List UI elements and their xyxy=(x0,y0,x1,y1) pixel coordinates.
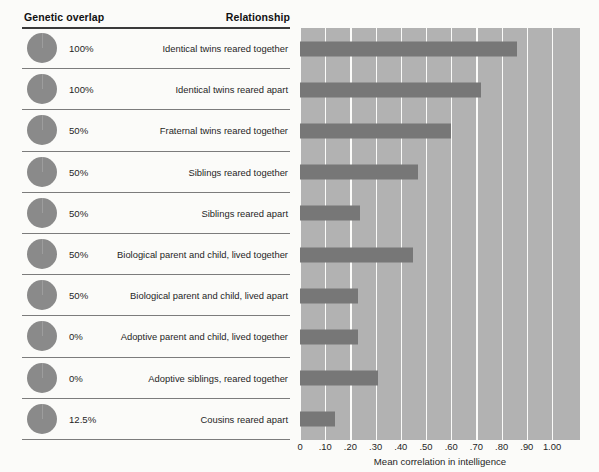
x-tick-label: .90 xyxy=(520,441,533,452)
x-tick-label: .40 xyxy=(394,441,407,452)
genetic-overlap-pie-icon xyxy=(27,363,57,393)
x-axis-title: Mean correlation in intelligence xyxy=(300,456,580,467)
bar-row xyxy=(300,234,580,275)
relationship-label: Adoptive parent and child, lived togethe… xyxy=(121,331,288,342)
pie-slice-divider xyxy=(42,198,43,213)
pie-slice-divider xyxy=(42,404,43,419)
genetic-overlap-pie-icon xyxy=(27,74,57,104)
genetic-overlap-correlation-figure: Genetic overlap Relationship 100%Identic… xyxy=(0,0,599,472)
relationship-label: Identical twins reared apart xyxy=(175,84,288,95)
bar-row xyxy=(300,28,580,69)
table-row: 100%Identical twins reared apart xyxy=(22,69,290,110)
header-genetic-overlap: Genetic overlap xyxy=(24,11,104,23)
genetic-overlap-value: 50% xyxy=(69,207,88,218)
column-headers: Genetic overlap Relationship xyxy=(22,8,290,28)
x-tick-label: .20 xyxy=(344,441,357,452)
genetic-overlap-pie-icon xyxy=(27,33,57,63)
genetic-overlap-value: 12.5% xyxy=(69,413,96,424)
x-tick-label: .10 xyxy=(319,441,332,452)
genetic-overlap-pie-icon xyxy=(27,321,57,351)
relationship-label: Fraternal twins reared together xyxy=(160,125,288,136)
pie-slice-divider xyxy=(42,363,43,378)
genetic-overlap-value: 0% xyxy=(69,331,83,342)
x-tick-label: .80 xyxy=(495,441,508,452)
genetic-overlap-value: 50% xyxy=(69,125,88,136)
header-relationship: Relationship xyxy=(226,11,290,23)
correlation-bar xyxy=(300,123,451,138)
relationship-label: Biological parent and child, lived toget… xyxy=(117,249,288,260)
genetic-overlap-pie-icon xyxy=(27,198,57,228)
correlation-bar xyxy=(300,206,360,221)
pie-slice-divider xyxy=(42,280,43,295)
genetic-overlap-pie-icon xyxy=(27,115,57,145)
relationship-label: Siblings reared together xyxy=(188,166,288,177)
genetic-overlap-pie-icon xyxy=(27,404,57,434)
genetic-overlap-value: 100% xyxy=(69,84,94,95)
bar-row xyxy=(300,152,580,193)
table-row: 0%Adoptive parent and child, lived toget… xyxy=(22,316,290,357)
x-tick-label: .60 xyxy=(445,441,458,452)
correlation-bar xyxy=(300,371,378,386)
correlation-bar xyxy=(300,329,358,344)
table-row: 12.5%Cousins reared apart xyxy=(22,399,290,440)
x-tick-label: .70 xyxy=(470,441,483,452)
genetic-overlap-pie-icon xyxy=(27,157,57,187)
genetic-overlap-value: 50% xyxy=(69,249,88,260)
table-row: 50%Biological parent and child, lived to… xyxy=(22,234,290,275)
bar-row xyxy=(300,110,580,151)
pie-slice-divider xyxy=(42,33,43,48)
pie-slice-divider xyxy=(42,321,43,336)
relationship-label: Adoptive siblings, reared together xyxy=(148,372,288,383)
bar-row xyxy=(300,316,580,357)
table-row: 50%Siblings reared together xyxy=(22,152,290,193)
correlation-bar xyxy=(300,41,517,56)
relationship-label: Biological parent and child, lived apart xyxy=(130,290,288,301)
genetic-overlap-value: 0% xyxy=(69,372,83,383)
table-row: 50%Biological parent and child, lived ap… xyxy=(22,275,290,316)
bar-row xyxy=(300,193,580,234)
correlation-bar xyxy=(300,412,335,427)
pie-slice-divider xyxy=(42,157,43,172)
genetic-overlap-value: 50% xyxy=(69,290,88,301)
bar-row xyxy=(300,69,580,110)
bar-row xyxy=(300,399,580,440)
bar-row xyxy=(300,275,580,316)
correlation-bar xyxy=(300,247,413,262)
genetic-overlap-pie-icon xyxy=(27,280,57,310)
correlation-bar xyxy=(300,288,358,303)
pie-slice-divider xyxy=(42,74,43,89)
table-row: 50%Fraternal twins reared together xyxy=(22,110,290,151)
genetic-overlap-value: 100% xyxy=(69,43,94,54)
correlation-bar xyxy=(300,82,481,97)
x-tick-label: .50 xyxy=(419,441,432,452)
x-tick-label: 0 xyxy=(297,441,302,452)
relationship-label: Identical twins reared together xyxy=(162,43,288,54)
relationship-label: Siblings reared apart xyxy=(201,207,288,218)
bar-row xyxy=(300,358,580,399)
correlation-bar xyxy=(300,165,418,180)
pie-slice-divider xyxy=(42,239,43,254)
genetic-overlap-value: 50% xyxy=(69,166,88,177)
genetic-overlap-pie-icon xyxy=(27,239,57,269)
x-tick-label: 1.00 xyxy=(543,441,561,452)
table-row: 100%Identical twins reared together xyxy=(22,28,290,69)
table-row: 50%Siblings reared apart xyxy=(22,193,290,234)
relationship-table: 100%Identical twins reared together100%I… xyxy=(22,28,290,440)
relationship-label: Cousins reared apart xyxy=(200,413,288,424)
table-row: 0%Adoptive siblings, reared together xyxy=(22,358,290,399)
pie-slice-divider xyxy=(42,115,43,130)
x-tick-label: .30 xyxy=(369,441,382,452)
bar-chart-plot-area xyxy=(300,28,580,440)
